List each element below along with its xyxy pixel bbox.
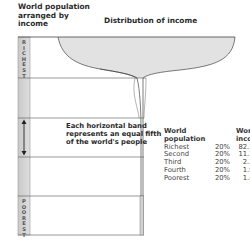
band-explanation-note: Each horizontal band represents an equal… bbox=[66, 122, 162, 147]
income-share-table: World World population income Richest20%… bbox=[164, 128, 250, 183]
note-line: represents an equal fifth bbox=[66, 130, 162, 138]
table-row: Poorest20%1.4% bbox=[164, 175, 250, 183]
richest-bar-label: RICHEST bbox=[18, 40, 30, 79]
note-line: of the world's people bbox=[66, 138, 162, 146]
note-line: Each horizontal band bbox=[66, 122, 162, 130]
poorest-bar-label: POOREST bbox=[18, 199, 30, 238]
richest-income-area bbox=[58, 37, 235, 78]
